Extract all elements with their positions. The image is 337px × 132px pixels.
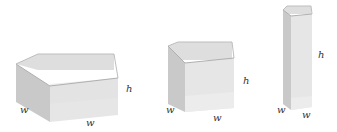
width-label: w bbox=[213, 112, 222, 123]
depth-label: w bbox=[20, 104, 29, 115]
height-label: h bbox=[243, 75, 249, 86]
tall-narrow-box: h w w bbox=[277, 6, 324, 120]
height-label: h bbox=[318, 49, 324, 60]
inner-back-wall bbox=[16, 54, 114, 70]
width-label: w bbox=[302, 109, 311, 120]
boxes-diagram: h w w h w w h w w bbox=[0, 0, 337, 132]
front-face bbox=[291, 14, 312, 110]
depth-label: w bbox=[277, 104, 286, 115]
height-label: h bbox=[126, 83, 132, 94]
inner-floor bbox=[291, 96, 312, 110]
wide-flat-box: h w w bbox=[16, 54, 132, 128]
width-label: w bbox=[86, 117, 95, 128]
cube-box: h w w bbox=[166, 42, 249, 123]
left-face bbox=[283, 10, 291, 110]
depth-label: w bbox=[166, 104, 175, 115]
